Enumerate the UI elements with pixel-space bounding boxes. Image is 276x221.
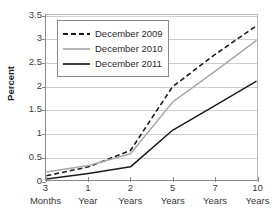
y-tick-mark bbox=[42, 110, 46, 111]
x-tick-label: 10Years bbox=[231, 182, 276, 207]
legend-swatch-icon bbox=[63, 44, 90, 54]
y-tick-mark bbox=[42, 158, 46, 159]
y-tick-label: 2.5 bbox=[20, 57, 42, 67]
legend-swatch-icon bbox=[63, 59, 90, 69]
y-tick-mark bbox=[42, 39, 46, 40]
legend-swatch-icon bbox=[63, 29, 90, 39]
legend-label: December 2009 bbox=[95, 29, 163, 39]
series-line bbox=[46, 81, 256, 179]
x-axis-tick-labels: 3Months1Year2Years5Years7Years10Years bbox=[45, 182, 258, 221]
legend-item[interactable]: December 2011 bbox=[63, 56, 162, 71]
legend-label: December 2010 bbox=[95, 44, 163, 54]
legend-item[interactable]: December 2010 bbox=[63, 41, 162, 56]
y-tick-label: 1.5 bbox=[20, 105, 42, 115]
y-tick-mark bbox=[42, 87, 46, 88]
x-tick-unit: Years bbox=[231, 195, 276, 208]
line-chart: Percent 00.511.522.533.5 3Months1Year2Ye… bbox=[0, 0, 275, 221]
y-tick-label: 3.5 bbox=[20, 10, 42, 20]
y-tick-mark bbox=[42, 63, 46, 64]
y-tick-label: 0.5 bbox=[20, 152, 42, 162]
legend-label: December 2011 bbox=[95, 59, 162, 69]
legend-item[interactable]: December 2009 bbox=[63, 26, 162, 41]
y-tick-label: 2 bbox=[20, 81, 42, 91]
y-axis-title: Percent bbox=[5, 52, 16, 116]
y-tick-label: 1 bbox=[20, 128, 42, 138]
y-tick-mark bbox=[42, 16, 46, 17]
y-tick-mark bbox=[42, 134, 46, 135]
y-tick-label: 3 bbox=[20, 33, 42, 43]
legend: December 2009December 2010December 2011 bbox=[57, 20, 169, 77]
x-tick-number: 10 bbox=[231, 182, 276, 195]
